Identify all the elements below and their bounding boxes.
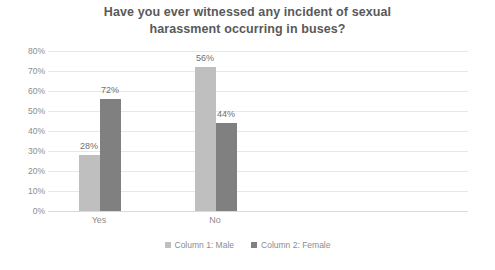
x-axis-tick-label: No [209,215,221,225]
legend-item[interactable]: Column 1: Male [165,240,235,250]
y-axis: 80%70%60%50%40%30%20%10%0% [0,44,45,220]
legend-item[interactable]: Column 2: Female [251,240,330,250]
legend-label: Column 2: Female [261,240,330,250]
y-axis-tick-label: 80% [0,46,45,56]
y-axis-tick-label: 10% [0,186,45,196]
bar-chart: Have you ever witnessed any incident of … [0,0,495,270]
bar-no-male [195,67,216,211]
bar-yes-female [100,99,121,211]
gridline [48,71,468,72]
bar-value-label: 56% [196,53,214,63]
bar-value-label: 44% [217,109,235,119]
bar-no-female [216,123,237,211]
legend-label: Column 1: Male [175,240,235,250]
x-axis-tick-label: Yes [92,215,107,225]
gridline [48,211,468,212]
bar-yes-male [79,155,100,211]
y-axis-tick-label: 70% [0,66,45,76]
chart-title-line-1: Have you ever witnessed any incident of … [60,4,435,21]
chart-title-line-2: harassment occurring in buses? [60,21,435,38]
y-axis-tick-label: 60% [0,86,45,96]
y-axis-tick-label: 50% [0,106,45,116]
chart-legend: Column 1: MaleColumn 2: Female [0,240,495,250]
y-axis-tick-label: 30% [0,146,45,156]
bar-value-label: 28% [80,141,98,151]
x-axis: YesNo [48,215,468,233]
plot-area: 28%72%56%44% [48,51,468,211]
chart-title: Have you ever witnessed any incident of … [60,4,435,38]
gridline [48,51,468,52]
legend-swatch-icon [251,242,257,248]
y-axis-tick-label: 20% [0,166,45,176]
bar-value-label: 72% [101,85,119,95]
legend-swatch-icon [165,242,171,248]
y-axis-tick-label: 40% [0,126,45,136]
y-axis-tick-label: 0% [0,206,45,216]
